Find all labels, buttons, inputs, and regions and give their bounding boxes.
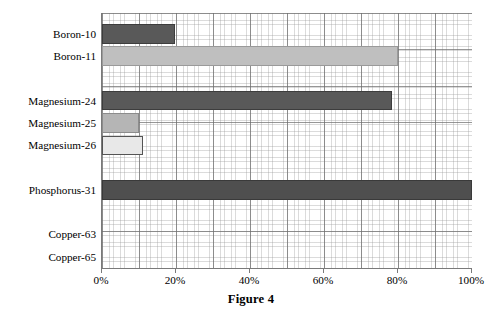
category-label: Copper-63 [0,229,96,240]
bar [102,24,175,44]
bar [102,136,143,156]
bar [102,91,392,111]
category-label: Magnesium-24 [0,96,96,107]
figure-container: Boron-10Boron-11Magnesium-24Magnesium-25… [0,0,502,318]
bar [102,46,398,66]
x-axis-tick-label: 40% [219,274,279,286]
x-axis-line [101,268,472,269]
category-label: Copper-65 [0,252,96,263]
x-axis-tick [175,268,176,273]
x-axis-tick [471,268,472,273]
x-axis-tick [323,268,324,273]
figure-caption: Figure 4 [0,292,502,307]
bar [102,113,139,133]
x-axis-tick-label: 100% [441,274,501,286]
category-label-column: Boron-10Boron-11Magnesium-24Magnesium-25… [0,14,100,268]
x-axis-tick [101,268,102,273]
category-label: Boron-11 [0,51,96,62]
category-label: Magnesium-25 [0,118,96,129]
plot-area [101,13,472,268]
x-axis-tick-label: 20% [145,274,205,286]
x-axis-tick-label: 0% [71,274,131,286]
x-axis-tick [249,268,250,273]
x-axis-tick-label: 80% [367,274,427,286]
x-axis-tick-label: 60% [293,274,353,286]
x-axis-tick [397,268,398,273]
category-label: Phosphorus-31 [0,185,96,196]
category-label: Magnesium-26 [0,140,96,151]
category-label: Boron-10 [0,29,96,40]
bar [102,180,472,200]
